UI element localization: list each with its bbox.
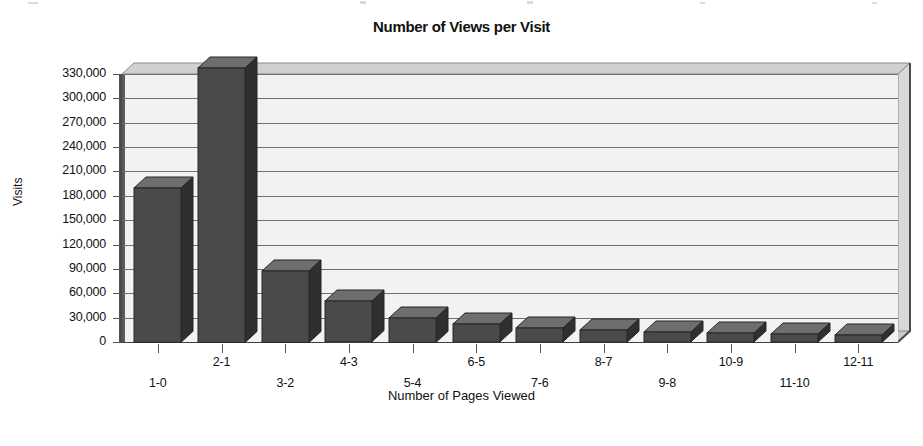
y-axis-tick-label: 180,000 [40, 188, 106, 202]
y-axis-tick-label: 60,000 [40, 285, 106, 299]
x-axis-tick [158, 344, 159, 353]
x-axis-tick [285, 344, 286, 353]
y-axis-tick [113, 98, 121, 99]
bar [835, 335, 882, 342]
y-axis-tick-label: 0 [40, 334, 106, 348]
y-axis-tick-label: 240,000 [40, 139, 106, 153]
y-axis-tick-label: 210,000 [40, 163, 106, 177]
y-axis-tick [113, 318, 121, 319]
x-axis-tick [604, 344, 605, 353]
x-axis-tick [667, 344, 668, 353]
bar [198, 68, 245, 342]
x-axis-tick [476, 344, 477, 353]
scan-artifact [360, 1, 366, 4]
scan-artifact [527, 1, 533, 4]
y-axis-tick-label: 90,000 [40, 261, 106, 275]
bar [134, 188, 181, 342]
y-axis-tick [113, 269, 121, 270]
x-axis-tick [858, 344, 859, 353]
bar [325, 301, 372, 342]
y-axis-tick [113, 342, 121, 343]
y-axis-tick-label: 30,000 [40, 310, 106, 324]
y-axis-tick-label: 150,000 [40, 212, 106, 226]
x-axis-tick-label: 7-6 [531, 376, 548, 390]
y-axis-tick-label: 330,000 [40, 66, 106, 80]
scan-artifact [28, 2, 38, 4]
x-axis-tick-label: 1-0 [149, 376, 166, 390]
x-axis-tick-label: 8-7 [595, 355, 612, 369]
bar-3d-shape [580, 319, 641, 344]
y-axis-tick [113, 171, 121, 172]
x-axis-tick [222, 344, 223, 353]
scan-artifact [700, 2, 705, 4]
bar-3d-shape [453, 313, 514, 344]
bar [453, 324, 500, 342]
bar-3d-shape [835, 324, 896, 344]
plot-area: 030,00060,00090,000120,000150,000180,000… [0, 0, 923, 446]
y-axis-tick-label: 120,000 [40, 237, 106, 251]
y-axis-tick-label: 270,000 [40, 115, 106, 129]
y-axis-tick [113, 196, 121, 197]
y-axis-tick-label: 300,000 [40, 90, 106, 104]
bar-3d-shape [516, 317, 577, 344]
bar-3d-shape [262, 260, 323, 344]
scan-artifact [872, 2, 877, 4]
bar-3d-shape [707, 322, 768, 344]
y-axis-tick [113, 147, 121, 148]
x-axis-tick [731, 344, 732, 353]
bar-3d-shape [644, 321, 705, 344]
x-axis-tick-label: 2-1 [213, 355, 230, 369]
x-axis-tick-label: 10-9 [719, 355, 743, 369]
x-axis-tick [540, 344, 541, 353]
y-axis-tick [113, 245, 121, 246]
x-axis-tick [349, 344, 350, 353]
y-axis-tick [113, 74, 121, 75]
x-axis-tick [413, 344, 414, 353]
bar-3d-shape [198, 57, 259, 344]
y-axis-tick [113, 123, 121, 124]
bar [644, 332, 691, 342]
bar [707, 333, 754, 342]
x-axis-tick-label: 9-8 [658, 376, 675, 390]
x-axis-tick [795, 344, 796, 353]
x-axis-tick-label: 6-5 [467, 355, 484, 369]
y-axis-tick [113, 293, 121, 294]
bar [580, 330, 627, 342]
x-axis-tick-label: 11-10 [779, 376, 809, 390]
x-axis-tick-label: 4-3 [340, 355, 357, 369]
bar [771, 334, 818, 342]
x-axis-tick-label: 12-11 [843, 355, 873, 369]
x-axis-tick-label: 5-4 [404, 376, 421, 390]
x-axis-tick-label: 3-2 [276, 376, 293, 390]
bar [516, 328, 563, 342]
bar-3d-shape [325, 290, 386, 344]
bar-3d-shape [771, 323, 832, 344]
bar-3d-shape [389, 307, 450, 344]
bar [389, 318, 436, 342]
y-axis-tick [113, 220, 121, 221]
bar-3d-shape [134, 177, 195, 344]
chart-container: Number of Views per Visit Visits Number … [0, 0, 923, 446]
bar [262, 271, 309, 342]
